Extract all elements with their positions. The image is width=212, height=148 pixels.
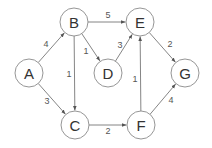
node-a: A <box>15 59 43 87</box>
node-label: E <box>135 14 145 31</box>
node-label: B <box>69 14 79 31</box>
edge-weight-e-g: 2 <box>167 39 172 49</box>
nodes: ABCDEFG <box>15 8 199 139</box>
node-f: F <box>127 111 155 139</box>
edge-b-c <box>74 36 75 111</box>
node-label: C <box>70 117 81 134</box>
node-label: D <box>103 65 114 82</box>
edge-weight-d-e: 3 <box>117 40 122 50</box>
node-d: D <box>94 59 122 87</box>
edge-weight-b-e: 5 <box>105 10 110 20</box>
node-c: C <box>61 111 89 139</box>
edge-a-b <box>38 33 64 63</box>
edge-weight-c-f: 2 <box>105 126 110 136</box>
edge-weight-f-g: 4 <box>168 95 173 105</box>
edge-weight-b-d: 1 <box>83 46 88 56</box>
node-label: A <box>24 65 34 82</box>
edge-f-e <box>140 36 141 111</box>
edge-weight-f-e: 1 <box>132 74 137 84</box>
edge-weight-a-b: 4 <box>43 39 48 49</box>
node-label: G <box>179 65 191 82</box>
node-label: F <box>136 117 145 134</box>
edge-weight-b-c: 1 <box>66 69 71 79</box>
edge-weight-a-c: 3 <box>44 96 49 106</box>
node-b: B <box>60 8 88 36</box>
graph-diagram: 4351132214 ABCDEFG <box>0 0 212 148</box>
node-e: E <box>126 8 154 36</box>
edge-a-c <box>38 83 65 114</box>
node-g: G <box>171 59 199 87</box>
